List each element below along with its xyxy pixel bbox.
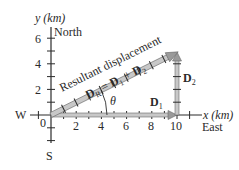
x-tick-4: 4 bbox=[98, 119, 104, 133]
north-label: North bbox=[54, 25, 82, 39]
west-label: W bbox=[15, 108, 27, 122]
x-tick-8: 8 bbox=[148, 119, 154, 133]
origin-label: 0 bbox=[40, 116, 46, 130]
d2-label: D2 bbox=[183, 71, 196, 87]
y-axis-label: y (km) bbox=[34, 11, 65, 25]
theta-label: θ bbox=[110, 94, 116, 108]
east-label: East bbox=[202, 120, 223, 134]
x-tick-2: 2 bbox=[73, 119, 79, 133]
vector-addition-diagram: y (km) North 6 4 2 W 0 S 2 4 6 8 10 x (k… bbox=[0, 0, 239, 170]
x-tick-6: 6 bbox=[123, 119, 129, 133]
south-label: S bbox=[46, 149, 53, 163]
vector-d2 bbox=[173, 52, 182, 115]
y-tick-2: 2 bbox=[35, 83, 41, 97]
y-tick-6: 6 bbox=[35, 32, 41, 46]
x-tick-10: 10 bbox=[170, 119, 182, 133]
d1-label: D1 bbox=[150, 95, 163, 111]
y-tick-4: 4 bbox=[35, 57, 41, 71]
